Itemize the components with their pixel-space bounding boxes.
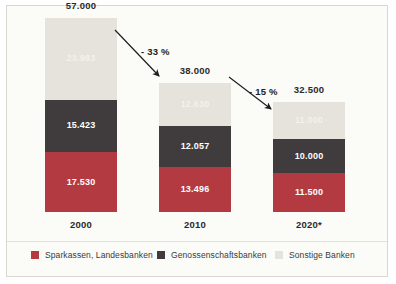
x-axis-label-2000: 2000 <box>45 219 117 230</box>
bar-group-2020: 32.500 11.000 10.000 11.500 2020* <box>273 102 345 212</box>
segment-value-label: 10.000 <box>295 152 324 161</box>
segment-value-label: 17.530 <box>67 178 96 187</box>
x-axis-label-2010: 2010 <box>159 219 231 230</box>
segment-sparkassen-landesbanken-2010[interactable]: 13.496 <box>159 167 231 212</box>
segment-sparkassen-landesbanken-2020[interactable]: 11.500 <box>273 173 345 212</box>
legend-item-sonstige-banken[interactable]: Sonstige Banken <box>275 250 355 260</box>
annotation-change-33: - 33 % <box>141 46 170 57</box>
legend-label: Genossenschaftsbanken <box>171 250 267 260</box>
segment-sonstige-banken-2010[interactable]: 12.630 <box>159 83 231 126</box>
legend-item-sparkassen-landesbanken[interactable]: Sparkassen, Landesbanken <box>31 250 153 260</box>
bar-group-2000: 57.000 23.983 15.423 17.530 2000 <box>45 18 117 212</box>
segment-value-label: 12.057 <box>181 142 210 151</box>
legend-label: Sonstige Banken <box>289 250 355 260</box>
bar-total-2020: 32.500 <box>273 84 345 95</box>
bar-group-2010: 38.000 12.630 12.057 13.496 2010 <box>159 83 231 212</box>
segment-value-label: 13.496 <box>181 185 210 194</box>
bar-total-2000: 57.000 <box>45 0 117 11</box>
segment-genossenschaftsbanken-2020[interactable]: 10.000 <box>273 139 345 173</box>
segment-sonstige-banken-2020[interactable]: 11.000 <box>273 102 345 139</box>
annotation-change-15: - 15 % <box>249 86 278 97</box>
legend-item-genossenschaftsbanken[interactable]: Genossenschaftsbanken <box>157 250 267 260</box>
segment-value-label: 11.500 <box>295 188 323 197</box>
legend-swatch-light <box>275 251 283 259</box>
segment-value-label: 15.423 <box>67 121 96 130</box>
stacked-bar-2000[interactable]: 23.983 15.423 17.530 <box>45 18 117 212</box>
segment-value-label: 12.630 <box>181 100 210 109</box>
segment-sonstige-banken-2000[interactable]: 23.983 <box>45 18 117 100</box>
segment-value-label: 11.000 <box>295 116 323 125</box>
plot-area: 57.000 23.983 15.423 17.530 2000 38.000 … <box>7 6 387 276</box>
segment-genossenschaftsbanken-2010[interactable]: 12.057 <box>159 126 231 167</box>
bar-total-2010: 38.000 <box>159 65 231 76</box>
stacked-bar-2020[interactable]: 11.000 10.000 11.500 <box>273 102 345 212</box>
legend-swatch-red <box>31 251 39 259</box>
legend-swatch-dark <box>157 251 165 259</box>
chart-legend: Sparkassen, Landesbanken Genossenschafts… <box>7 241 387 268</box>
legend-label: Sparkassen, Landesbanken <box>45 250 153 260</box>
x-axis-label-2020: 2020* <box>273 219 345 230</box>
stacked-bar-2010[interactable]: 12.630 12.057 13.496 <box>159 83 231 212</box>
segment-sparkassen-landesbanken-2000[interactable]: 17.530 <box>45 152 117 212</box>
chart-frame: 57.000 23.983 15.423 17.530 2000 38.000 … <box>6 5 388 277</box>
segment-value-label: 23.983 <box>67 54 96 63</box>
segment-genossenschaftsbanken-2000[interactable]: 15.423 <box>45 100 117 153</box>
